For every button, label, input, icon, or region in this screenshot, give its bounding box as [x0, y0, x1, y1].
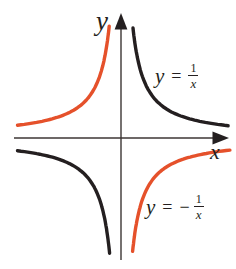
fraction-one-over-x: 1 x: [188, 62, 198, 90]
equation-negative-sign: −: [179, 198, 193, 216]
equation-positive-lhs: y: [155, 66, 171, 87]
equation-label-positive: y = 1 x: [155, 62, 198, 90]
y-axis-label: y: [96, 8, 108, 35]
x-axis-label: x: [210, 141, 220, 163]
y-axis-arrowhead-icon: [115, 13, 128, 30]
equation-positive-equals: =: [171, 67, 188, 85]
hyperbola-figure: y x y = 1 x y = − 1 x: [0, 0, 236, 269]
equation-negative-lhs: y: [146, 197, 162, 218]
fraction-numerator: 1: [188, 62, 198, 75]
fraction-one-over-x: 1 x: [194, 193, 204, 221]
plot-canvas: [0, 0, 236, 269]
fraction-denominator: x: [196, 207, 202, 221]
axes-layer: [14, 13, 229, 260]
curve-y-equals-neg-1-over-x: [18, 26, 110, 125]
curve-y-equals-1-over-x: [18, 151, 110, 254]
equation-label-negative: y = − 1 x: [146, 193, 204, 221]
fraction-denominator: x: [191, 76, 197, 90]
fraction-numerator: 1: [194, 193, 204, 206]
equation-negative-equals: =: [162, 198, 179, 216]
